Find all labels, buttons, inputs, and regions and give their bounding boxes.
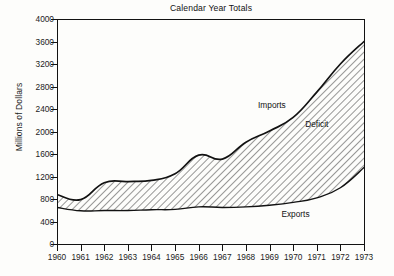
- y-tick-label: 400: [40, 217, 54, 225]
- x-tick-mark: [151, 245, 152, 251]
- x-tick-label: 1973: [355, 253, 373, 261]
- plot-area: Calendar Year Totals 0400800120016002000…: [57, 19, 365, 245]
- y-tick-label: 0: [49, 240, 54, 248]
- y-tick-label: 1600: [36, 150, 54, 158]
- x-tick-mark: [270, 245, 271, 251]
- x-tick-label: 1972: [331, 253, 349, 261]
- y-tick-label: 800: [40, 195, 54, 203]
- y-tick-label: 3600: [36, 37, 54, 45]
- x-tick-label: 1960: [48, 253, 66, 261]
- annotation-deficit: Deficit: [305, 120, 328, 128]
- x-tick-mark: [222, 245, 223, 251]
- x-tick-mark: [246, 245, 247, 251]
- annotation-exports: Exports: [281, 210, 309, 218]
- chart-data-layer: [57, 19, 365, 245]
- x-tick-mark: [364, 245, 365, 251]
- x-tick-mark: [175, 245, 176, 251]
- x-tick-label: 1962: [95, 253, 113, 261]
- x-tick-label: 1968: [237, 253, 255, 261]
- chart-figure: Millions of Dollars Calendar Year Totals…: [0, 0, 394, 276]
- y-tick-label: 3200: [36, 60, 54, 68]
- y-tick-label: 1200: [36, 172, 54, 180]
- x-tick-mark: [57, 245, 58, 251]
- x-tick-label: 1969: [260, 253, 278, 261]
- x-tick-label: 1966: [189, 253, 207, 261]
- x-tick-label: 1965: [166, 253, 184, 261]
- y-tick-label: 4000: [36, 15, 54, 23]
- x-tick-mark: [340, 245, 341, 251]
- x-tick-mark: [199, 245, 200, 251]
- x-tick-mark: [81, 245, 82, 251]
- y-tick-label: 2000: [36, 127, 54, 135]
- x-tick-mark: [104, 245, 105, 251]
- y-tick-label: 2800: [36, 82, 54, 90]
- x-tick-label: 1971: [308, 253, 326, 261]
- x-tick-label: 1964: [142, 253, 160, 261]
- x-tick-mark: [128, 245, 129, 251]
- y-tick-label: 2400: [36, 105, 54, 113]
- chart-title: Calendar Year Totals: [57, 3, 365, 13]
- x-tick-label: 1967: [213, 253, 231, 261]
- annotation-imports: Imports: [258, 100, 286, 108]
- x-tick-label: 1961: [71, 253, 89, 261]
- x-tick-label: 1963: [119, 253, 137, 261]
- x-tick-mark: [293, 245, 294, 251]
- x-tick-mark: [317, 245, 318, 251]
- x-tick-label: 1970: [284, 253, 302, 261]
- y-axis-label: Millions of Dollars: [14, 42, 24, 192]
